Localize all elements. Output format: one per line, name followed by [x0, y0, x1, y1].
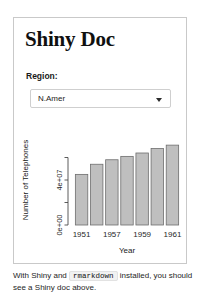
rmarkdown-code-chip: rmarkdown — [69, 271, 118, 281]
bar-1959 — [136, 153, 148, 225]
bar-1957 — [106, 160, 118, 225]
bar-1960 — [151, 149, 163, 226]
page-title: Shiny Doc — [25, 27, 115, 51]
x-tick-label: 1961 — [164, 230, 182, 239]
region-label: Region: — [26, 71, 58, 81]
x-tick-label: 1951 — [73, 230, 91, 239]
y-axis-title: Number of Telephones — [21, 140, 30, 220]
bar-1956 — [91, 164, 103, 225]
chevron-down-icon — [156, 98, 162, 102]
footer-note: With Shiny and rmarkdown installed, you … — [13, 270, 193, 293]
region-select-value: N.Amer — [38, 94, 65, 103]
y-tick-label: 0e+00 — [55, 214, 64, 235]
x-tick-label: 1957 — [103, 230, 121, 239]
y-tick-label: 4e+07 — [55, 169, 64, 190]
telephones-bar-chart: 0e+004e+07Number of Telephones1951195719… — [14, 121, 187, 261]
region-select[interactable]: N.Amer — [30, 89, 171, 108]
shiny-document-panel: Shiny Doc Region: N.Amer 0e+004e+07Numbe… — [13, 17, 187, 264]
bar-1958 — [121, 156, 133, 225]
x-tick-label: 1959 — [133, 230, 151, 239]
x-axis-title: Year — [119, 246, 136, 255]
footer-text-before: With Shiny and — [13, 271, 67, 280]
bar-1961 — [166, 145, 178, 225]
bar-1951 — [75, 174, 87, 225]
bar-chart-svg: 0e+004e+07Number of Telephones1951195719… — [14, 121, 187, 261]
